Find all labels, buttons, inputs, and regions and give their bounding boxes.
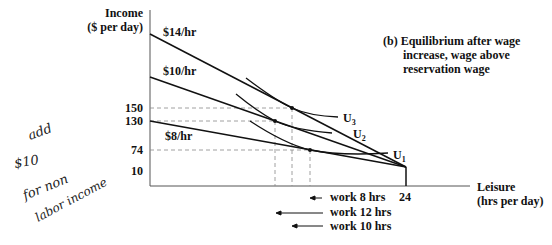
svg-text:add: add (26, 120, 54, 142)
dashed-guides (150, 108, 310, 186)
wage-label-14: $14/hr (163, 25, 197, 39)
equilibrium-point-u3 (290, 106, 294, 110)
handwritten-note: add $10 for non labor income (13, 120, 110, 224)
indifference-curve-u1 (250, 121, 388, 154)
indifference-curve-u2 (236, 94, 332, 133)
curve-label-u1: U1 (393, 148, 406, 164)
y-tick-130: 130 (125, 114, 143, 128)
x-axis-label-line1: Leisure (477, 180, 516, 194)
budget-line-8 (150, 121, 406, 167)
equilibrium-point-u1 (308, 148, 312, 152)
curve-label-u3: U3 (343, 111, 356, 127)
x-axis-label-line2: (hrs per day) (477, 194, 543, 208)
y-tick-150: 150 (125, 101, 143, 115)
curve-label-u2: U2 (353, 127, 366, 143)
work-12-label: work 12 hrs (330, 205, 392, 219)
wage-label-8: $8/hr (165, 129, 193, 143)
y-tick-74: 74 (131, 143, 143, 157)
work-10-label: work 10 hrs (330, 219, 392, 233)
svg-text:$10: $10 (13, 152, 40, 171)
panel-title-line2: increase, wage above (403, 48, 510, 62)
labor-leisure-diagram: Income ($ per day) Leisure (hrs per day)… (0, 0, 552, 245)
y-axis-label-line1: Income (105, 6, 144, 20)
arrowhead-icon (310, 196, 315, 200)
x-tick-24: 24 (399, 190, 411, 204)
panel-title-line3: reservation wage (403, 62, 490, 76)
y-tick-10: 10 (131, 164, 143, 178)
work-8-label: work 8 hrs (330, 190, 386, 204)
equilibrium-point-u2 (273, 119, 277, 123)
arrowhead-icon (276, 211, 281, 215)
arrowhead-icon (292, 224, 297, 228)
y-axis-label-line2: ($ per day) (87, 20, 143, 34)
panel-title-line1: (b) Equilibrium after wage (383, 34, 521, 48)
wage-label-10: $10/hr (163, 64, 197, 78)
